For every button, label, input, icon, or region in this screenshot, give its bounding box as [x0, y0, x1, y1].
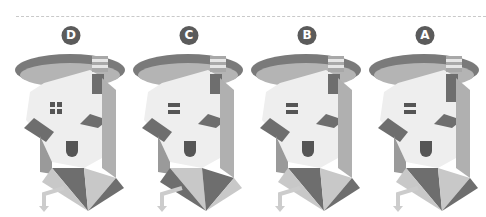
figure-d[interactable]: D [12, 22, 130, 212]
label-badge-a: A [416, 26, 435, 45]
figure-a[interactable]: A [366, 22, 484, 212]
floating-house-illustration [130, 48, 248, 213]
figure-b[interactable]: B [248, 22, 366, 212]
label-badge-c: C [180, 26, 199, 45]
floating-house-illustration [248, 48, 366, 213]
figure-c[interactable]: C [130, 22, 248, 212]
label-badge-b: B [298, 26, 317, 45]
figure-row: D [0, 0, 486, 217]
label-badge-d: D [62, 26, 81, 45]
floating-house-illustration [366, 48, 484, 213]
floating-house-illustration [12, 48, 130, 213]
